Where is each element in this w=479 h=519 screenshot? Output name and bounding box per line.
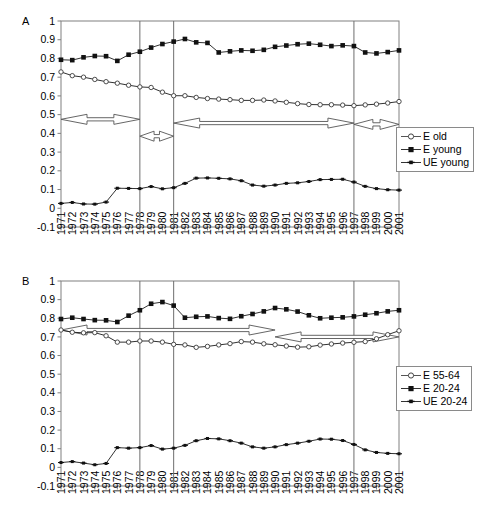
x-tick-label: 1990 <box>269 211 281 235</box>
data-point <box>160 42 165 47</box>
data-point <box>171 94 175 98</box>
data-point <box>295 345 299 349</box>
y-tick-label: 0.6 <box>40 90 55 102</box>
x-tick-label: 1989 <box>258 211 270 235</box>
x-tick-label: 1979 <box>145 211 157 235</box>
data-point <box>183 315 188 320</box>
data-point <box>205 344 209 348</box>
y-tick-label: 0.3 <box>40 146 55 158</box>
data-point <box>363 50 368 55</box>
panel-a: A -0.100.10.20.30.40.50.60.70.80.9119711… <box>0 0 479 260</box>
x-tick-label: 1999 <box>370 470 382 494</box>
y-tick-label: 0.6 <box>40 349 55 361</box>
data-point <box>385 50 390 55</box>
legend-b-item-0: E 55-64 <box>400 369 467 382</box>
x-tick-label: 1992 <box>292 211 304 235</box>
data-point <box>93 54 98 59</box>
x-tick-label: 1971 <box>55 470 67 494</box>
open-circle-icon <box>400 370 422 381</box>
data-point <box>104 54 109 59</box>
data-point <box>160 340 164 344</box>
x-tick-label: 1984 <box>201 470 213 494</box>
data-point <box>273 99 277 103</box>
data-point <box>149 85 153 89</box>
data-point <box>273 45 278 50</box>
y-tick-label: 0.5 <box>40 368 55 380</box>
data-point <box>397 308 402 313</box>
x-tick-label: 1993 <box>303 211 315 235</box>
x-tick-label: 1993 <box>303 470 315 494</box>
filled-square-icon <box>400 383 422 394</box>
y-tick-label: 0.3 <box>40 405 55 417</box>
x-tick-label: 1985 <box>213 470 225 494</box>
data-point <box>205 41 210 46</box>
data-point <box>284 344 288 348</box>
data-point <box>93 77 97 81</box>
x-tick-label: 1995 <box>325 211 337 235</box>
data-point <box>194 345 198 349</box>
data-point <box>115 59 120 64</box>
data-point <box>329 103 333 107</box>
x-tick-label: 1998 <box>359 211 371 235</box>
data-point <box>284 43 289 48</box>
x-tick-label: 2000 <box>382 470 394 494</box>
data-point <box>81 317 86 322</box>
data-point <box>205 96 209 100</box>
x-tick-label: 1999 <box>370 211 382 235</box>
data-point <box>183 343 187 347</box>
x-tick-label: 1979 <box>145 470 157 494</box>
y-tick-label: 0.9 <box>40 33 55 45</box>
data-point <box>352 103 356 107</box>
data-point <box>307 102 311 106</box>
x-tick-label: 1994 <box>314 470 326 494</box>
legend-b-label-2: UE 20-24 <box>423 396 467 407</box>
legend-a-label-2: UE young <box>423 157 469 168</box>
x-tick-label: 1983 <box>190 211 202 235</box>
data-point <box>374 51 379 56</box>
data-point <box>273 306 278 311</box>
y-tick-label: -0.1 <box>37 221 55 233</box>
x-tick-label: 1992 <box>292 470 304 494</box>
legend-a-label-0: E old <box>423 131 447 142</box>
annotation-double-arrow <box>354 119 399 129</box>
x-tick-label: 2001 <box>393 211 405 235</box>
data-point <box>329 342 333 346</box>
data-point <box>228 317 233 322</box>
y-tick-label: -0.1 <box>37 480 55 492</box>
x-tick-label: 1971 <box>55 211 67 235</box>
data-point <box>81 331 85 335</box>
data-point <box>386 101 390 105</box>
data-point <box>329 44 334 49</box>
legend-b-label-1: E 20-24 <box>423 383 460 394</box>
data-point <box>59 70 63 74</box>
x-tick-label: 1994 <box>314 211 326 235</box>
data-point <box>59 317 64 322</box>
y-tick-label: 0.2 <box>40 424 55 436</box>
data-point <box>160 300 165 305</box>
data-point <box>138 85 142 89</box>
data-point <box>171 303 176 308</box>
data-point <box>126 83 130 87</box>
data-point <box>352 314 357 319</box>
data-point <box>374 102 378 106</box>
legend-b-item-1: E 20-24 <box>400 382 467 395</box>
data-point <box>81 55 86 60</box>
filled-plus-icon <box>400 396 422 407</box>
data-point <box>307 313 312 318</box>
data-point <box>239 314 244 319</box>
panel-b: B -0.100.10.20.30.40.50.60.70.80.9119711… <box>0 260 479 519</box>
data-point <box>228 341 232 345</box>
data-point <box>352 44 357 49</box>
data-point <box>239 48 244 53</box>
data-point <box>340 43 345 48</box>
legend-b: E 55-64 E 20-24 UE 20-24 <box>396 366 472 411</box>
data-point <box>126 52 131 57</box>
data-point <box>329 315 334 320</box>
filled-plus-icon <box>400 157 422 168</box>
data-point <box>104 334 108 338</box>
data-point <box>194 40 199 45</box>
data-point <box>70 73 74 77</box>
figure-root: A -0.100.10.20.30.40.50.60.70.80.9119711… <box>0 0 479 519</box>
y-tick-label: 0.4 <box>40 386 55 398</box>
data-point <box>397 329 401 333</box>
